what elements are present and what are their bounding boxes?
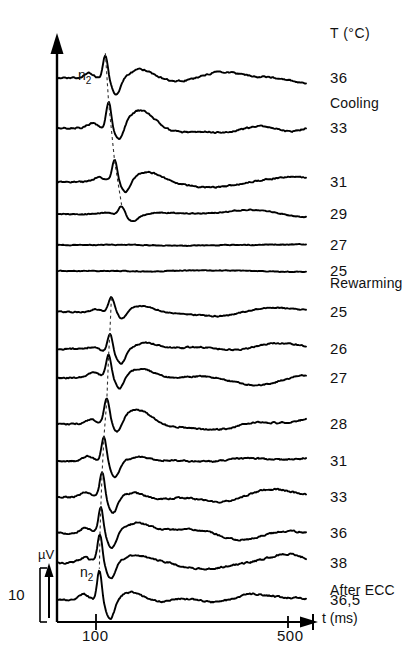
- waveform-trace: [57, 206, 306, 221]
- temperature-label: 31: [330, 174, 347, 189]
- peak-annotation-subscript: 2: [88, 572, 94, 583]
- waveform-trace: [57, 571, 306, 619]
- temperature-column-header: T (°C): [330, 26, 370, 40]
- temperature-label: 29: [330, 206, 347, 221]
- evoked-potential-figure: T (°C) Cooling Rewarming After ECC t (ms…: [0, 0, 407, 665]
- waveform-trace: [57, 160, 306, 192]
- temperature-label: 36,5: [330, 592, 360, 607]
- peak-annotation-n2: n2: [80, 565, 93, 583]
- trace-group: [57, 56, 306, 619]
- x-tick-label-100: 100: [82, 628, 109, 643]
- waveform-trace: [57, 56, 306, 95]
- waveform-trace: [57, 244, 306, 246]
- x-axis-label: t (ms): [322, 611, 358, 625]
- peak-annotation-letter: n: [80, 564, 88, 580]
- waveform-trace: [57, 102, 306, 139]
- peak-annotation-letter: n: [78, 67, 86, 83]
- waveform-trace: [57, 297, 306, 318]
- temperature-label: 31: [330, 453, 347, 468]
- temperature-label: 27: [330, 370, 347, 385]
- temperature-label: 33: [330, 489, 347, 504]
- temperature-label: 36: [330, 525, 347, 540]
- amplitude-scale-bar: [40, 563, 54, 622]
- x-axis-arrowhead: [300, 617, 318, 628]
- temperature-label: 38: [330, 555, 347, 570]
- y-axis-arrowhead: [51, 33, 64, 54]
- waveform-trace: [57, 535, 306, 578]
- waveform-trace: [57, 334, 306, 364]
- waveform-trace: [57, 270, 306, 272]
- waveform-trace: [57, 472, 306, 513]
- scale-arrow-head: [45, 563, 54, 577]
- y-axis-unit-label: µV: [38, 548, 54, 561]
- temperature-label: 25: [330, 304, 347, 319]
- phase-label-cooling: Cooling: [330, 96, 379, 110]
- waveform-trace: [57, 437, 306, 478]
- temperature-label: 26: [330, 341, 347, 356]
- temperature-label: 27: [330, 237, 347, 252]
- temperature-label: 36: [330, 70, 347, 85]
- waveform-trace: [57, 399, 306, 432]
- peak-annotation-n2: n2: [78, 68, 91, 86]
- temperature-label: 33: [330, 120, 347, 135]
- scale-bar-value: 10: [8, 587, 25, 602]
- temperature-label: 25: [330, 263, 347, 278]
- waveform-trace: [57, 355, 306, 389]
- temperature-label: 28: [330, 416, 347, 431]
- waveform-trace: [57, 507, 306, 548]
- peak-annotation-subscript: 2: [86, 75, 92, 86]
- x-tick-label-500: 500: [277, 628, 304, 643]
